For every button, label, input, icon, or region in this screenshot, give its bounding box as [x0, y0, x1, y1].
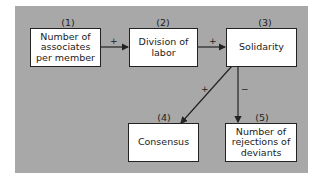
node-rejections-of-deviants: Number of rejections of deviants	[225, 123, 297, 162]
node-number-4: (4)	[144, 112, 184, 123]
node-label-1: Number of associates per member	[36, 32, 96, 64]
edge-sign-3-5: −	[241, 84, 249, 94]
node-label-3: Solidarity	[239, 42, 284, 53]
edge-3-4	[181, 66, 232, 123]
edge-sign-2-3: +	[209, 36, 217, 46]
node-solidarity: Solidarity	[226, 28, 297, 67]
node-label-5: Number of rejections of deviants	[230, 127, 292, 159]
node-number-2: (2)	[143, 17, 183, 28]
node-number-5: (5)	[242, 112, 282, 123]
node-number-3: (3)	[245, 17, 285, 28]
node-consensus: Consensus	[128, 123, 199, 162]
edge-sign-1-2: +	[110, 36, 118, 46]
node-number-1: (1)	[48, 17, 88, 28]
node-label-4: Consensus	[138, 137, 189, 148]
node-label-2: Division of labor	[138, 37, 190, 58]
node-associates-per-member: Number of associates per member	[30, 28, 101, 67]
edge-sign-3-4: +	[201, 84, 209, 94]
node-division-of-labor: Division of labor	[129, 28, 198, 67]
